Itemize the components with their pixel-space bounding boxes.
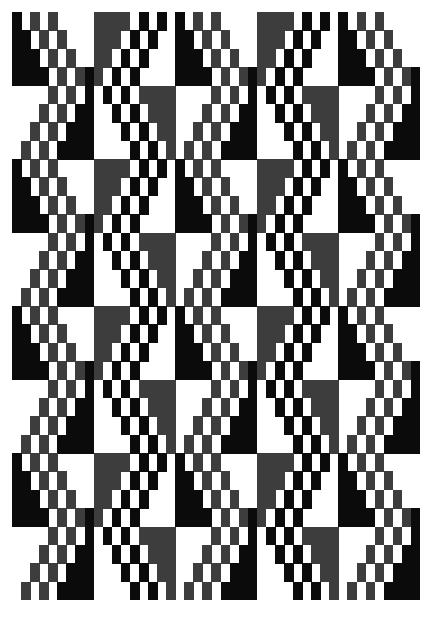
black-cell (39, 361, 49, 380)
gray-cell (357, 306, 367, 325)
gray-cell (329, 435, 339, 454)
gray-cell (329, 86, 339, 105)
black-cell (284, 527, 294, 546)
black-cell (366, 67, 376, 86)
black-cell (411, 582, 420, 600)
black-cell (266, 233, 276, 252)
gray-cell (221, 324, 231, 343)
gray-cell (384, 324, 394, 343)
black-cell (248, 122, 258, 141)
gray-cell (48, 159, 58, 178)
black-cell (293, 251, 303, 270)
gray-cell (112, 471, 122, 490)
black-cell (293, 398, 303, 417)
gray-cell (48, 86, 58, 105)
gray-cell (48, 196, 58, 215)
gray-cell (30, 12, 40, 31)
gray-cell (39, 141, 49, 160)
gray-cell (48, 563, 58, 582)
black-cell (130, 177, 140, 196)
gray-cell (230, 343, 240, 362)
gray-cell (166, 122, 176, 141)
black-cell (293, 67, 303, 86)
gray-cell (329, 582, 339, 600)
black-cell (148, 435, 158, 454)
black-cell (411, 508, 420, 527)
gray-cell (211, 269, 221, 288)
gray-cell (193, 563, 203, 582)
gray-cell (57, 67, 67, 86)
black-cell (284, 86, 294, 105)
gray-cell (202, 435, 212, 454)
black-cell (338, 453, 348, 472)
gray-cell (184, 288, 194, 307)
gray-cell (66, 343, 76, 362)
gray-cell (230, 86, 240, 105)
gray-cell (266, 49, 276, 68)
gray-cell (221, 471, 231, 490)
gray-cell (57, 251, 67, 270)
black-cell (112, 361, 122, 380)
gray-cell (30, 159, 40, 178)
gray-cell (329, 380, 339, 399)
black-cell (148, 141, 158, 160)
black-cell (284, 196, 294, 215)
black-cell (103, 380, 113, 399)
gray-cell (166, 582, 176, 600)
gray-cell (39, 177, 49, 196)
gray-cell (393, 380, 403, 399)
black-cell (148, 30, 158, 49)
gray-cell (329, 104, 339, 123)
black-cell (302, 416, 312, 435)
black-cell (293, 508, 303, 527)
black-cell (411, 361, 420, 380)
gray-cell (366, 545, 376, 564)
black-cell (338, 306, 348, 325)
gray-cell (57, 545, 67, 564)
black-cell (248, 582, 258, 600)
black-cell (121, 490, 131, 509)
gray-cell (48, 306, 58, 325)
gray-cell (48, 343, 58, 362)
black-cell (347, 471, 357, 490)
black-cell (148, 582, 158, 600)
gray-cell (230, 49, 240, 68)
gray-cell (211, 306, 221, 325)
black-cell (85, 86, 95, 105)
black-cell (293, 361, 303, 380)
gray-cell (211, 12, 221, 31)
gray-cell (329, 251, 339, 270)
gray-cell (39, 104, 49, 123)
gray-cell (103, 490, 113, 509)
gray-cell (166, 104, 176, 123)
gray-cell (393, 49, 403, 68)
black-cell (266, 380, 276, 399)
gray-cell (211, 563, 221, 582)
gray-cell (94, 214, 104, 233)
gray-cell (202, 104, 212, 123)
gray-cell (384, 104, 394, 123)
black-cell (411, 233, 420, 252)
black-cell (85, 398, 95, 417)
black-cell (293, 177, 303, 196)
gray-cell (384, 214, 394, 233)
black-cell (275, 214, 285, 233)
gray-cell (57, 471, 67, 490)
black-cell (248, 288, 258, 307)
black-cell (130, 214, 140, 233)
gray-cell (275, 177, 285, 196)
black-cell (411, 67, 420, 86)
black-cell (130, 30, 140, 49)
black-cell (357, 49, 367, 68)
black-cell (302, 122, 312, 141)
gray-cell (347, 288, 357, 307)
black-cell (193, 49, 203, 68)
black-cell (85, 582, 95, 600)
black-cell (112, 104, 122, 123)
gray-cell (202, 30, 212, 49)
black-cell (311, 471, 321, 490)
black-cell (411, 141, 420, 160)
gray-cell (48, 233, 58, 252)
black-cell (248, 416, 258, 435)
gray-cell (202, 471, 212, 490)
